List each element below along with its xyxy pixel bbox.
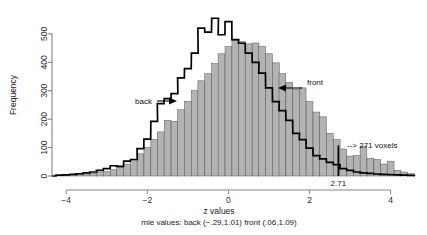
histogram-bar [198, 81, 205, 176]
histogram-bar [286, 82, 293, 176]
y-axis-tick-label: 200 [39, 112, 49, 126]
histogram-bar [306, 102, 313, 176]
histogram-bar [124, 164, 131, 176]
histogram-bar [164, 120, 171, 176]
x-axis: −4−2024 [61, 190, 393, 205]
histogram-bar [171, 121, 178, 176]
back-arrow-head-icon [169, 98, 177, 105]
histogram-bar [157, 132, 164, 176]
histogram-bar [347, 156, 354, 176]
y-axis-tick-label: 400 [39, 55, 49, 69]
histogram-bar [299, 88, 306, 176]
subtitle-mle-values: mle values: back (−.29,1.01) front (.06,… [141, 218, 297, 227]
histogram-figure: 2.71 0100200300400500 Frequency −4−2024 … [0, 0, 427, 235]
y-axis-tick-label: 500 [39, 27, 49, 41]
histogram-bar [273, 63, 280, 176]
histogram-bar [191, 91, 198, 176]
y-axis-tick-label: 0 [39, 173, 49, 178]
x-axis-tick-label: 2 [307, 195, 312, 205]
back-annotation: back [135, 97, 177, 106]
histogram-bar [90, 173, 97, 176]
histogram-bar [266, 54, 273, 176]
histogram-bar [225, 47, 232, 176]
x-axis-tick-label: −2 [142, 195, 152, 205]
back-annotation-label: back [135, 97, 153, 106]
histogram-bar [340, 149, 347, 176]
y-axis-title: Frequency [8, 74, 18, 115]
histogram-bar [313, 112, 320, 176]
histogram-bar [184, 101, 191, 176]
x-axis-title: z values [203, 206, 234, 216]
histogram-bar [232, 40, 239, 176]
histogram-bar [117, 167, 124, 176]
cutoff-label: 2.71 [331, 179, 347, 188]
histogram-bar [245, 44, 252, 176]
histogram-bar [205, 74, 212, 176]
front-annotation-label: front [307, 78, 324, 87]
voxels-annotation-label: --> 271 voxels [347, 141, 397, 150]
histogram-bar [144, 148, 151, 176]
histogram-bar [218, 54, 225, 176]
histogram-bar [103, 171, 110, 176]
histogram-bar [110, 170, 117, 176]
x-axis-tick-label: 4 [388, 195, 393, 205]
histogram-bar [320, 117, 327, 176]
histogram-bar [96, 173, 103, 176]
histogram-bar [131, 160, 138, 176]
x-axis-tick-label: 0 [226, 195, 231, 205]
y-axis-tick-label: 100 [39, 140, 49, 154]
front-bars-group [56, 40, 414, 176]
y-axis: 0100200300400500 [39, 27, 52, 179]
histogram-bar [151, 140, 158, 176]
histogram-bar [238, 42, 245, 176]
histogram-bar [326, 133, 333, 176]
histogram-bar [178, 110, 185, 176]
histogram-svg: 2.71 0100200300400500 Frequency −4−2024 … [0, 0, 427, 235]
y-axis-tick-label: 300 [39, 83, 49, 97]
histogram-bar [212, 64, 219, 176]
x-axis-tick-label: −4 [61, 195, 71, 205]
histogram-bar [83, 174, 90, 176]
